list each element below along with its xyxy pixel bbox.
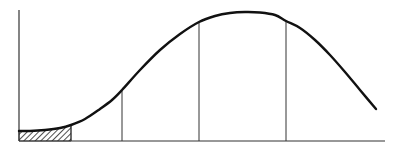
main-curve	[19, 12, 376, 131]
curve-svg	[0, 0, 396, 152]
curve	[19, 12, 376, 131]
axes	[19, 10, 385, 141]
growth-curve-diagram	[0, 0, 396, 152]
vertical-dividers	[71, 21, 286, 141]
